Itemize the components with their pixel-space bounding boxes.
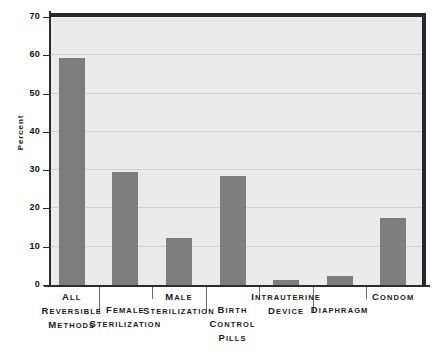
x-label-line: INTRAUTERINE: [231, 290, 341, 304]
x-label-line: CONTROL: [178, 317, 288, 331]
bar: [220, 176, 246, 285]
x-axis-category-label: DIAPHRAGM: [285, 303, 395, 317]
x-label-line: PILLS: [178, 331, 288, 345]
y-tick-label: 30: [14, 164, 40, 174]
x-label-line: CONDOM: [338, 290, 433, 304]
y-tick-mark: [43, 55, 49, 56]
bar: [112, 172, 138, 285]
bar: [59, 58, 85, 285]
y-tick-label: 10: [14, 241, 40, 251]
bars-group: [51, 17, 422, 285]
plot-area: [51, 13, 426, 285]
x-label-line: DIAPHRAGM: [285, 303, 395, 317]
y-tick-mark: [43, 94, 49, 95]
bar: [166, 238, 192, 285]
y-tick-label: 40: [14, 126, 40, 136]
x-label-line: MALE: [124, 290, 234, 304]
x-label-line: STERILIZATION: [70, 317, 180, 331]
x-label-line: ALL: [17, 290, 127, 304]
y-tick-mark: [43, 170, 49, 171]
y-tick-label: 60: [14, 49, 40, 59]
x-axis-category-label: CONDOM: [338, 290, 433, 304]
y-tick-mark: [43, 208, 49, 209]
x-axis-line: [44, 285, 430, 287]
y-tick-label: 0: [14, 279, 40, 289]
y-tick-label: 20: [14, 202, 40, 212]
y-tick-mark: [43, 247, 49, 248]
y-axis-line: [49, 11, 51, 287]
y-tick-mark: [43, 132, 49, 133]
y-tick-label: 70: [14, 11, 40, 21]
bar-chart: Percent 010203040506070 ALLREVERSIBLEMET…: [0, 0, 433, 361]
bar: [327, 276, 353, 285]
y-tick-mark: [43, 17, 49, 18]
bar: [380, 218, 406, 285]
y-tick-label: 50: [14, 88, 40, 98]
y-tick-mark: [43, 285, 49, 286]
